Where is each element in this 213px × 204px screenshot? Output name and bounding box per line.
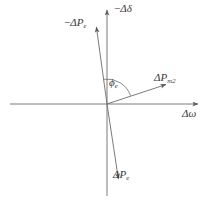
delta-pe-label: ΔPe — [113, 169, 129, 180]
neg-delta-pe-vector — [96, 27, 107, 104]
delta-omega-axis-label: Δω — [182, 108, 196, 119]
vector-symbol: ΔP — [70, 16, 83, 28]
phi-subscript: e — [115, 82, 118, 89]
vector-symbol: ΔP — [113, 168, 126, 180]
neg-delta-pe-label: −ΔPe — [64, 17, 86, 28]
vector-diagram-figure: −Δδ −ΔPe ΔPm2 ϕe Δω ΔPe — [0, 0, 213, 204]
phi-angle-label: ϕe — [109, 77, 118, 88]
axis-symbol: Δω — [182, 107, 196, 119]
vector-diagram-canvas — [0, 0, 213, 204]
vector-symbol: ΔP — [154, 71, 167, 83]
vector-subscript: e — [126, 174, 129, 181]
phi-symbol: ϕ — [109, 76, 115, 88]
vector-subscript: e — [84, 22, 87, 29]
neg-delta-delta-axis-label: −Δδ — [114, 3, 132, 14]
axis-symbol: Δδ — [120, 2, 132, 14]
delta-pm2-label: ΔPm2 — [154, 72, 176, 83]
vector-subscript: m2 — [167, 77, 175, 84]
